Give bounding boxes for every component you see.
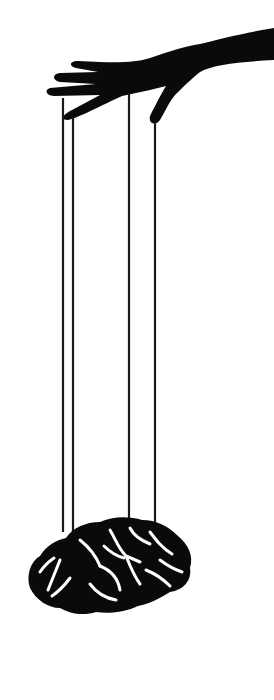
hand-silhouette [47,28,274,123]
illustration [0,0,274,700]
marionette-illustration [0,0,274,700]
brain-silhouette [28,517,191,614]
